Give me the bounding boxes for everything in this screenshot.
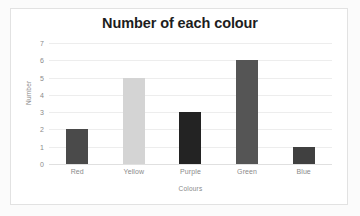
bar-blue[interactable] [293, 147, 315, 164]
y-tick-label: 6 [40, 57, 44, 64]
y-tick-label: 3 [40, 109, 44, 116]
bar-slot [106, 43, 163, 164]
x-tick-label-red: Red [49, 168, 106, 175]
bar-slot [219, 43, 276, 164]
x-tick-label-yellow: Yellow [106, 168, 163, 175]
y-tick-label: 1 [40, 143, 44, 150]
bar-purple[interactable] [179, 112, 201, 164]
bar-slot [49, 43, 106, 164]
x-axis-tick-labels: RedYellowPurpleGreenBlue [49, 168, 332, 175]
y-tick-label: 2 [40, 126, 44, 133]
chart-title: Number of each colour [11, 15, 349, 31]
y-tick-label: 0 [40, 161, 44, 168]
bar-slot [162, 43, 219, 164]
y-tick-label: 4 [40, 91, 44, 98]
bar-green[interactable] [236, 60, 258, 164]
y-axis-title: Number [25, 81, 32, 105]
x-tick-label-purple: Purple [162, 168, 219, 175]
bar-red[interactable] [66, 129, 88, 164]
plot-area: 76543210 [49, 43, 332, 164]
x-tick-label-blue: Blue [275, 168, 332, 175]
chart-frame: Number of each colour Number 76543210 Re… [10, 8, 348, 205]
x-axis-title: Colours [49, 185, 332, 192]
bar-yellow[interactable] [123, 78, 145, 164]
gridline [49, 164, 332, 165]
bar-slot [275, 43, 332, 164]
x-tick-label-green: Green [219, 168, 276, 175]
bars-layer [49, 43, 332, 164]
y-tick-label: 7 [40, 40, 44, 47]
y-tick-label: 5 [40, 74, 44, 81]
